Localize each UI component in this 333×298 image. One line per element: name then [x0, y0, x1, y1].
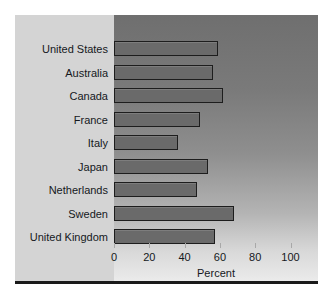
bar	[114, 159, 208, 174]
bar	[114, 182, 197, 197]
bar-category-label: Italy	[15, 131, 108, 155]
bar-track	[114, 61, 318, 85]
bar-category-label: United States	[15, 37, 108, 61]
x-axis-tick-label: 20	[143, 251, 155, 263]
bar	[114, 88, 223, 103]
bar-track	[114, 131, 318, 155]
bar-track	[114, 155, 318, 179]
bar-chart-figure: United StatesAustraliaCanadaFranceItalyJ…	[0, 0, 333, 298]
bar-row: Japan	[15, 155, 318, 179]
bar-track	[114, 202, 318, 226]
x-axis-tick-mark	[149, 243, 150, 248]
bar-row: France	[15, 108, 318, 132]
x-axis-tick-label: 60	[214, 251, 226, 263]
bar-category-label: France	[15, 108, 108, 132]
bar	[114, 206, 234, 221]
x-axis-tick-mark	[185, 243, 186, 248]
bar	[114, 229, 215, 244]
x-axis-tick-mark	[114, 243, 115, 248]
bar-row: Australia	[15, 61, 318, 85]
x-axis-title: Percent	[114, 267, 318, 279]
x-axis-tick-label: 100	[281, 251, 299, 263]
bar	[114, 65, 213, 80]
bar-category-label: United Kingdom	[15, 225, 108, 249]
x-axis-tick-label: 40	[178, 251, 190, 263]
bar-track	[114, 178, 318, 202]
bar-track	[114, 108, 318, 132]
x-axis-tick-label: 80	[249, 251, 261, 263]
x-axis: 020406080100 Percent	[114, 243, 318, 283]
bar-category-label: Netherlands	[15, 178, 108, 202]
x-axis-tick-mark	[220, 243, 221, 248]
bar-row: United States	[15, 37, 318, 61]
bar-category-label: Sweden	[15, 202, 108, 226]
bar-row: Netherlands	[15, 178, 318, 202]
bar-row: Italy	[15, 131, 318, 155]
bar-row: Sweden	[15, 202, 318, 226]
bar	[114, 135, 178, 150]
chart-panel: United StatesAustraliaCanadaFranceItalyJ…	[15, 15, 318, 283]
bar-track	[114, 37, 318, 61]
x-axis-tick-label: 0	[111, 251, 117, 263]
x-axis-tick-mark	[255, 243, 256, 248]
bar-row: Canada	[15, 84, 318, 108]
bar	[114, 41, 218, 56]
bar-track	[114, 84, 318, 108]
bar-category-label: Japan	[15, 155, 108, 179]
bar	[114, 112, 200, 127]
x-axis-tick-mark	[291, 243, 292, 248]
bar-category-label: Australia	[15, 61, 108, 85]
bar-category-label: Canada	[15, 84, 108, 108]
panel-baseline-rule	[15, 281, 318, 284]
